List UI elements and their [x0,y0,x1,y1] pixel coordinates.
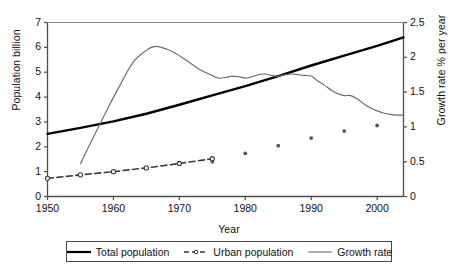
y-tick-label-left: 3 [11,115,41,127]
data-point-urban-population-points [210,160,214,164]
legend-swatch-solid-thick [66,247,92,257]
y-tick-label-left: 4 [11,90,41,102]
legend-label-urban-population: Urban population [213,246,293,258]
x-tick-label: 1990 [291,202,331,214]
y-tick-label-left: 0 [11,190,41,202]
population-growth-chart: Population billion Growth rate % per yea… [0,0,458,272]
y-tick-label-left: 7 [11,16,41,28]
chart-legend: Total population Urban population Growth… [66,241,392,262]
legend-label-total-population: Total population [96,246,170,258]
y-tick-label-right: 2.5 [410,16,444,28]
y-tick-label-left: 2 [11,140,41,152]
y-tick-label-left: 1 [11,165,41,177]
data-marker-urban-population [177,161,181,165]
y-tick-label-right: 0.5 [410,155,444,167]
y-tick-label-left: 5 [11,65,41,77]
x-tick-label: 1980 [225,202,265,214]
data-marker-urban-population [45,176,49,180]
data-point-urban-population-points [342,129,346,133]
y-tick-label-left: 6 [11,40,41,52]
data-marker-urban-population [111,170,115,174]
data-point-urban-population-points [309,136,313,140]
legend-item-total-population: Total population [66,246,170,258]
x-tick-label: 1960 [93,202,133,214]
legend-label-growth-rate: Growth rate [337,246,392,258]
y-tick-label-right: 2 [410,50,444,62]
data-point-urban-population-points [243,151,247,155]
series-line-growth-rate [80,46,403,163]
plot-area [0,0,458,272]
y-tick-label-right: 1 [410,120,444,132]
legend-swatch-dashed-marker [183,247,209,257]
legend-swatch-solid-thin [307,247,333,257]
x-tick-label: 1970 [159,202,199,214]
data-marker-urban-population [78,173,82,177]
data-point-urban-population-points [375,124,379,128]
legend-item-growth-rate: Growth rate [307,246,392,258]
x-tick-label: 2000 [357,202,397,214]
series-line-urban-population [48,159,213,179]
y-tick-label-right: 1.5 [410,85,444,97]
data-point-urban-population-points [276,144,280,148]
x-tick-label: 1950 [28,202,68,214]
series-line-total-population [48,37,404,133]
data-marker-urban-population [144,166,148,170]
legend-item-urban-population: Urban population [183,246,293,258]
y-tick-label-right: 0 [410,190,444,202]
